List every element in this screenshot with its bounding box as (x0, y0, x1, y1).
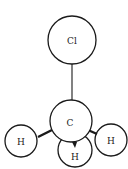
molecule-diagram: Cl C H H H (0, 0, 128, 169)
label-h-bottom: H (71, 152, 79, 162)
label-c: C (67, 118, 74, 128)
label-h-right: H (107, 136, 115, 146)
label-cl: Cl (67, 36, 77, 46)
label-h-left: H (17, 137, 25, 147)
bond-c-h-left (38, 130, 52, 137)
